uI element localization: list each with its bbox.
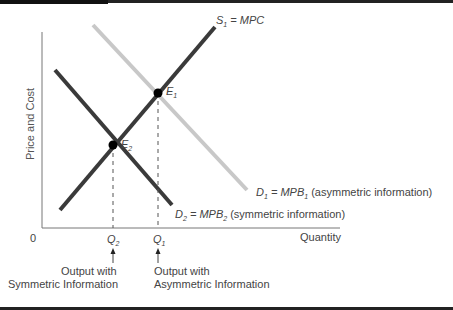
q1-tick-label: Q1 bbox=[153, 233, 165, 247]
d1-label: D1 = MPB1 (asymmetric information) bbox=[256, 186, 432, 200]
s1-label: S1 = MPC bbox=[216, 14, 264, 28]
q2-tick-label: Q2 bbox=[107, 233, 119, 247]
y-axis-label: Price and Cost bbox=[24, 84, 36, 164]
sym-annotation-line2: Symmetric Information bbox=[8, 278, 118, 290]
e2-label: E2 bbox=[121, 138, 132, 152]
e2-point bbox=[109, 141, 118, 150]
asym-annotation-line2: Asymmetric Information bbox=[154, 278, 270, 290]
origin-label: 0 bbox=[30, 232, 36, 244]
e1-label: E1 bbox=[166, 85, 177, 99]
e1-point bbox=[154, 89, 163, 98]
x-axis-label: Quantity bbox=[300, 231, 341, 243]
asym-annotation-line1: Output with bbox=[154, 265, 210, 277]
sym-annotation-line1: Output with bbox=[61, 265, 117, 277]
chart-canvas bbox=[0, 0, 453, 310]
d1-curve bbox=[93, 25, 247, 190]
s1-curve bbox=[60, 27, 215, 210]
d2-label: D2 = MPB2 (symmetric information) bbox=[175, 208, 345, 222]
q1-arrowhead-icon bbox=[156, 248, 161, 254]
q2-arrowhead-icon bbox=[111, 248, 116, 254]
